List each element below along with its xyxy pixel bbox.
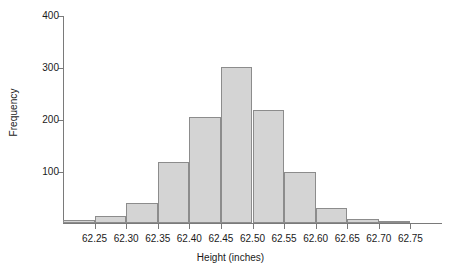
y-tick-label: 100 xyxy=(42,165,59,178)
y-tick-label: 400 xyxy=(42,9,59,22)
x-tick-mark xyxy=(316,224,317,229)
x-tick-mark xyxy=(221,224,222,229)
x-tick-mark xyxy=(347,224,348,229)
x-tick-label: 62.40 xyxy=(177,232,202,245)
histogram-bar xyxy=(284,172,316,223)
histogram-bar xyxy=(347,219,379,223)
y-axis-title-text: Frequency xyxy=(8,88,19,136)
histogram-bar xyxy=(158,162,190,223)
histogram-bar xyxy=(189,117,221,223)
x-tick-mark xyxy=(410,224,411,229)
x-tick-mark xyxy=(189,224,190,229)
histogram-bar xyxy=(316,208,348,223)
x-tick-mark xyxy=(379,224,380,229)
x-tick-label: 62.60 xyxy=(303,232,328,245)
histogram-bar xyxy=(126,203,158,223)
histogram-bar xyxy=(253,110,285,223)
x-tick-mark xyxy=(95,224,96,229)
x-tick-label: 62.50 xyxy=(240,232,265,245)
x-axis-title: Height (inches) xyxy=(0,252,461,263)
y-tick-label: 300 xyxy=(42,61,59,74)
histogram-bar xyxy=(221,67,253,223)
plot-area: 100200300400 62.2562.3062.3562.4062.4562… xyxy=(63,16,442,224)
histogram-bar xyxy=(95,216,127,223)
x-tick-label: 62.45 xyxy=(208,232,233,245)
x-tick-label: 62.75 xyxy=(398,232,423,245)
y-tick-label: 200 xyxy=(42,113,59,126)
x-tick-mark xyxy=(284,224,285,229)
histogram-bar xyxy=(63,220,95,223)
x-tick-mark xyxy=(126,224,127,229)
x-tick-mark xyxy=(253,224,254,229)
x-tick-mark xyxy=(158,224,159,229)
histogram-bar xyxy=(379,221,411,223)
x-tick-label: 62.55 xyxy=(272,232,297,245)
y-axis-title: Frequency xyxy=(2,0,24,224)
x-tick-label: 62.25 xyxy=(82,232,107,245)
x-tick-label: 62.70 xyxy=(366,232,391,245)
y-axis-line xyxy=(63,16,64,224)
x-tick-label: 62.30 xyxy=(114,232,139,245)
histogram-figure: Frequency 100200300400 62.2562.3062.3562… xyxy=(0,0,461,278)
x-tick-label: 62.35 xyxy=(145,232,170,245)
x-tick-label: 62.65 xyxy=(335,232,360,245)
